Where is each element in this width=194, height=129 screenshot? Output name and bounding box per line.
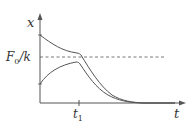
reference-label: F0/k	[5, 50, 31, 66]
t1-label: t1	[73, 107, 83, 123]
y-axis-arrow-icon	[38, 13, 43, 20]
upper-curve	[40, 35, 175, 103]
response-diagram: x t F0/k t1	[0, 0, 194, 129]
y-axis-label: x	[27, 15, 35, 30]
x-axis-arrow-icon	[179, 101, 186, 106]
x-axis-label: t	[174, 106, 180, 121]
lower-curve	[40, 62, 175, 103]
